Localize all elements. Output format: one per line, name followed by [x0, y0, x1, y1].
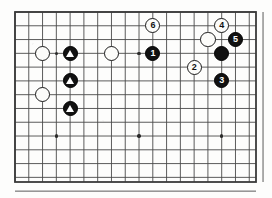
go-board[interactable]: 123456 [0, 0, 272, 198]
board-border [15, 12, 256, 182]
stone-move-number: 6 [150, 21, 155, 30]
move-stone-2[interactable]: 2 [187, 60, 202, 75]
triangle-mark-icon [66, 105, 74, 112]
stone-move-number: 5 [233, 35, 238, 44]
go-board-diagram: 123456 [0, 0, 272, 198]
black-stone-triangle-3[interactable] [63, 101, 78, 116]
white-stone-center-left[interactable] [104, 46, 119, 61]
star-point-lower-left [55, 134, 58, 137]
stone-move-number: 2 [192, 63, 197, 72]
triangle-mark-icon [66, 77, 74, 84]
white-stone-right-upper[interactable] [200, 32, 215, 47]
star-point-left [55, 52, 58, 55]
star-point-center [137, 52, 140, 55]
stone-move-number: 3 [219, 76, 224, 85]
black-stone-triangle-1[interactable] [63, 46, 78, 61]
stone-move-number: 1 [150, 49, 155, 58]
stone-move-number: 4 [219, 21, 224, 30]
white-stone-left-upper[interactable] [35, 46, 50, 61]
star-point-lower-center [137, 134, 140, 137]
triangle-mark-icon [66, 50, 74, 57]
